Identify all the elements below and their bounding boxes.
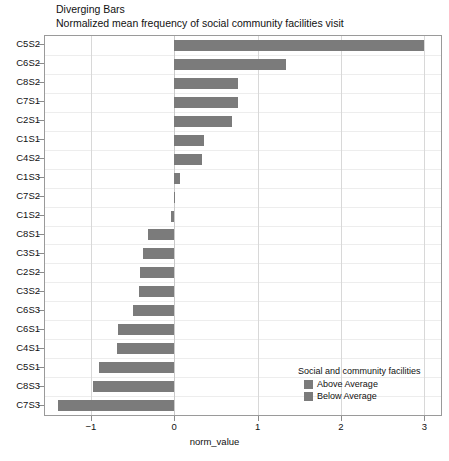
x-axis-title: norm_value <box>0 436 449 447</box>
x-axis-tick-label: 2 <box>338 421 343 433</box>
bar <box>174 40 424 51</box>
bar <box>174 116 232 127</box>
horizontal-gridline <box>45 226 441 227</box>
legend-item: Below Average <box>298 391 421 402</box>
bar <box>117 343 175 354</box>
bar <box>174 78 238 89</box>
chart-title: Diverging Bars <box>56 3 344 17</box>
bar <box>93 381 175 392</box>
bar <box>118 324 174 335</box>
horizontal-gridline <box>45 339 441 340</box>
horizontal-gridline <box>45 131 441 132</box>
x-axis-tick-label: 0 <box>172 421 177 433</box>
y-axis-tick-label: C1S1 <box>16 134 40 144</box>
bar <box>99 362 174 373</box>
y-axis-tick-label: C3S1 <box>16 248 40 258</box>
legend-item-label: Above Average <box>317 379 378 390</box>
y-axis-tick-label: C2S1 <box>16 115 40 125</box>
y-axis-tick-label: C8S2 <box>16 77 40 87</box>
zero-gridline <box>174 36 175 415</box>
y-axis-tick-label: C6S1 <box>16 324 40 334</box>
horizontal-gridline <box>45 74 441 75</box>
legend-item-label: Below Average <box>317 391 377 402</box>
y-axis-tick-label: C4S1 <box>16 343 40 353</box>
x-axis-tick-label: 3 <box>422 421 427 433</box>
y-axis-tick-label: C8S1 <box>16 229 40 239</box>
x-axis-title-text: norm_value <box>190 436 240 447</box>
bar <box>148 229 174 240</box>
vertical-gridline <box>341 36 342 415</box>
x-axis-tick-label: −1 <box>85 421 96 433</box>
x-axis-tick-labels: −10123 <box>0 421 449 435</box>
horizontal-gridline <box>45 282 441 283</box>
bar <box>174 192 175 203</box>
y-axis-tick-label: C3S2 <box>16 286 40 296</box>
bar <box>171 211 174 222</box>
vertical-gridline <box>424 36 425 415</box>
bar <box>58 400 174 411</box>
horizontal-gridline <box>45 263 441 264</box>
bar <box>174 97 237 108</box>
legend-title: Social and community facilities <box>298 365 421 377</box>
legend-swatch-icon <box>304 392 313 401</box>
bar <box>174 59 286 70</box>
y-axis-tick-label: C7S2 <box>16 191 40 201</box>
y-axis-tick-label: C4S2 <box>16 153 40 163</box>
y-axis-tick-label: C6S2 <box>16 58 40 68</box>
horizontal-gridline <box>45 112 441 113</box>
vertical-gridline <box>91 36 92 415</box>
bar <box>143 248 175 259</box>
plot-area <box>44 35 442 416</box>
legend-item: Above Average <box>298 379 421 390</box>
horizontal-gridline <box>45 244 441 245</box>
horizontal-gridline <box>45 150 441 151</box>
y-axis-tick-label: C7S1 <box>16 96 40 106</box>
legend-entries: Above AverageBelow Average <box>298 379 421 402</box>
bar <box>174 154 202 165</box>
y-axis-tick-label: C8S3 <box>16 381 40 391</box>
y-axis-labels: C5S2C6S2C8S2C7S1C2S1C1S1C4S2C1S3C7S2C1S2… <box>0 35 40 416</box>
y-axis-tick-label: C7S3 <box>16 400 40 410</box>
horizontal-gridline <box>45 93 441 94</box>
bar <box>174 173 180 184</box>
y-axis-tick-label: C1S2 <box>16 210 40 220</box>
y-axis-tick-label: C5S1 <box>16 362 40 372</box>
bar <box>133 305 174 316</box>
chart-title-block: Diverging Bars Normalized mean frequency… <box>56 3 344 30</box>
x-axis-tick-label: 1 <box>255 421 260 433</box>
y-axis-tick-label: C5S2 <box>16 39 40 49</box>
y-axis-tick-label: C1S3 <box>16 172 40 182</box>
legend-swatch-icon <box>304 380 313 389</box>
bar <box>140 267 174 278</box>
diverging-bar-chart: Diverging Bars Normalized mean frequency… <box>0 0 449 461</box>
chart-subtitle: Normalized mean frequency of social comm… <box>56 17 344 31</box>
horizontal-gridline <box>45 169 441 170</box>
y-axis-tick-label: C2S2 <box>16 267 40 277</box>
chart-legend: Social and community facilities Above Av… <box>298 365 421 403</box>
horizontal-gridline <box>45 358 441 359</box>
bar <box>139 286 174 297</box>
horizontal-gridline <box>45 55 441 56</box>
vertical-gridline <box>258 36 259 415</box>
bar <box>174 135 204 146</box>
horizontal-gridline <box>45 188 441 189</box>
horizontal-gridline <box>45 207 441 208</box>
y-axis-tick-label: C6S3 <box>16 305 40 315</box>
horizontal-gridline <box>45 320 441 321</box>
horizontal-gridline <box>45 301 441 302</box>
